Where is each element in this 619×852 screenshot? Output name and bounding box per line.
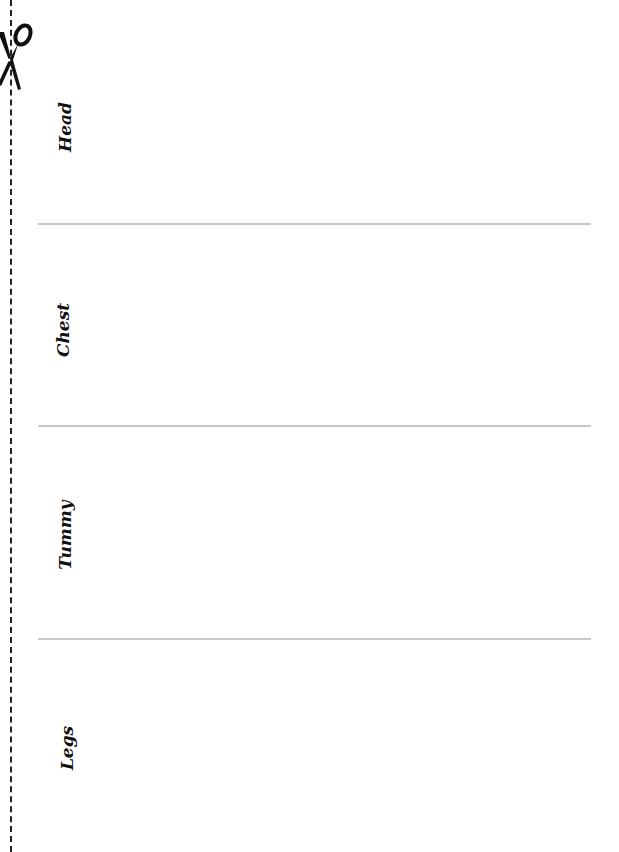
cut-line: [10, 0, 12, 852]
section-label-tummy: Tummy: [55, 500, 75, 569]
section-label-head: Head: [55, 102, 75, 152]
divider-1: [38, 223, 591, 225]
divider-3: [38, 638, 591, 640]
divider-2: [38, 425, 591, 427]
scissors-icon: [0, 20, 36, 92]
section-label-legs: Legs: [57, 726, 77, 770]
section-label-chest: Chest: [53, 303, 73, 357]
